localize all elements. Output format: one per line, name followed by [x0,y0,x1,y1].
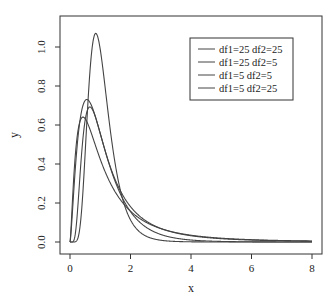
y-axis-label: y [7,132,21,138]
x-axis: 02468 [67,254,315,274]
y-tick-label: 0.2 [35,196,47,210]
x-tick-label: 0 [67,262,73,274]
x-tick-label: 4 [188,262,194,274]
legend-label: df1=5 df2=25 [219,83,277,94]
series-line [70,117,312,242]
y-tick-label: 0.6 [35,118,47,132]
legend-label: df1=25 df2=5 [219,57,277,68]
legend-label: df1=25 df2=25 [219,44,282,55]
y-tick-label: 0.8 [35,79,47,93]
y-tick-label: 0.4 [35,157,47,171]
x-tick-label: 6 [249,262,255,274]
x-tick-label: 8 [309,262,315,274]
y-tick-label: 0.0 [35,235,47,249]
series-line [70,99,312,242]
f-density-chart: 02468 0.00.20.40.60.81.0 x y df1=25 df2=… [0,0,333,304]
x-axis-label: x [188,281,194,295]
legend-label: df1=5 df2=5 [219,70,272,81]
x-tick-label: 2 [128,262,134,274]
legend: df1=25 df2=25df1=25 df2=5df1=5 df2=5df1=… [190,38,293,100]
y-tick-label: 1.0 [35,40,47,54]
y-axis: 0.00.20.40.60.81.0 [35,40,60,249]
